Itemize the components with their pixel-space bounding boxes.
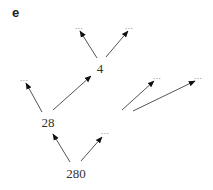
node-28: 28 <box>42 116 55 129</box>
node-ellipsis: ... <box>153 72 161 81</box>
edge-arrow <box>26 83 42 112</box>
node-ellipsis: ... <box>101 127 109 136</box>
edge-arrow <box>133 81 195 111</box>
edge-arrow <box>53 134 70 162</box>
edge-arrow <box>81 137 102 161</box>
node-280: 280 <box>66 167 86 180</box>
edge-layer <box>0 0 213 190</box>
node-ellipsis: ... <box>20 74 28 83</box>
node-ellipsis: ... <box>194 72 202 81</box>
edge-arrow <box>106 31 128 57</box>
edge-arrow <box>122 81 154 110</box>
edge-arrow <box>53 76 91 110</box>
node-ellipsis: ... <box>75 22 83 31</box>
edge-arrow <box>80 31 97 58</box>
node-ellipsis: ... <box>125 22 133 31</box>
node-4: 4 <box>97 62 104 75</box>
